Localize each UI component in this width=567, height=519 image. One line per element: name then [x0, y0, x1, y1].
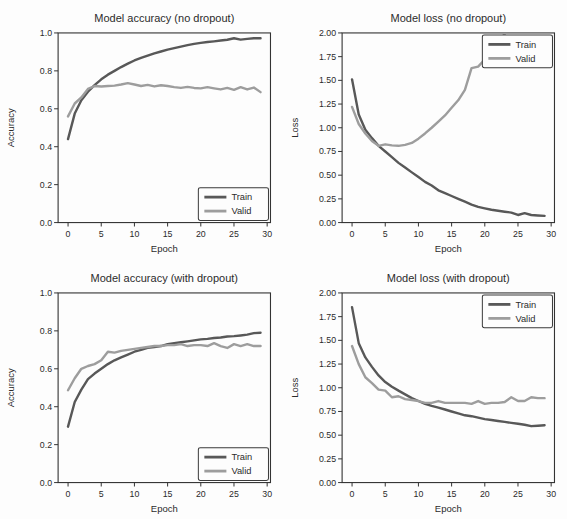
- y-tick-label: 1.0: [40, 28, 52, 38]
- x-tick-label: 15: [163, 229, 173, 239]
- x-tick-label: 30: [262, 488, 272, 498]
- cell-accuracy-with-dropout: 0510152025300.00.20.40.60.81.0Model accu…: [0, 260, 284, 519]
- series-group: [68, 38, 261, 139]
- x-axis-label: Epoch: [434, 243, 461, 254]
- y-tick-label: 0.0: [40, 477, 52, 487]
- y-tick-label: 2.00: [318, 28, 335, 38]
- y-tick-label: 0.75: [318, 146, 335, 156]
- x-tick-label: 5: [382, 488, 387, 498]
- series-line-train: [352, 79, 545, 216]
- x-tick-label: 20: [196, 229, 206, 239]
- x-tick-label: 30: [262, 229, 272, 239]
- y-tick-label: 1.50: [318, 335, 335, 345]
- x-tick-label: 10: [130, 488, 140, 498]
- x-tick-label: 0: [349, 229, 354, 239]
- legend: TrainValid: [482, 35, 552, 68]
- y-tick-label: 1.75: [318, 311, 335, 321]
- y-tick-label: 1.0: [40, 287, 52, 297]
- x-tick-label: 20: [479, 229, 489, 239]
- series-line-valid: [68, 83, 261, 116]
- x-tick-label: 10: [413, 488, 423, 498]
- chart-loss-with-dropout: 0510152025300.000.250.500.751.001.251.50…: [284, 260, 567, 519]
- y-tick-label: 0.4: [40, 142, 52, 152]
- y-tick-label: 1.00: [318, 123, 335, 133]
- x-tick-label: 5: [382, 229, 387, 239]
- x-tick-label: 5: [99, 488, 104, 498]
- legend-label-valid: Valid: [515, 313, 535, 323]
- y-axis-label: Accuracy: [5, 368, 16, 407]
- y-tick-label: 2.00: [318, 287, 335, 297]
- y-axis-label: Loss: [289, 118, 300, 138]
- x-tick-label: 15: [446, 229, 456, 239]
- series-line-valid: [352, 346, 545, 404]
- x-tick-label: 25: [513, 229, 523, 239]
- y-tick-label: 0.25: [318, 453, 335, 463]
- y-tick-label: 1.00: [318, 382, 335, 392]
- y-tick-label: 0.25: [318, 194, 335, 204]
- y-tick-label: 1.75: [318, 52, 335, 62]
- chart-title: Model loss (no dropout): [390, 12, 506, 24]
- y-tick-label: 0.8: [40, 66, 52, 76]
- chart-accuracy-with-dropout: 0510152025300.00.20.40.60.81.0Model accu…: [0, 260, 284, 519]
- x-tick-label: 20: [479, 488, 489, 498]
- y-tick-label: 0.50: [318, 170, 335, 180]
- training-curves-figure: 0510152025300.00.20.40.60.81.0Model accu…: [0, 0, 567, 519]
- chart-title: Model accuracy (with dropout): [91, 271, 238, 283]
- x-tick-label: 0: [66, 229, 71, 239]
- x-tick-label: 10: [130, 229, 140, 239]
- chart-title: Model loss (with dropout): [386, 271, 509, 283]
- y-tick-label: 0.0: [40, 218, 52, 228]
- legend-label-train: Train: [231, 452, 252, 462]
- cell-accuracy-no-dropout: 0510152025300.00.20.40.60.81.0Model accu…: [0, 0, 284, 260]
- x-tick-label: 10: [413, 229, 423, 239]
- legend-label-train: Train: [515, 40, 536, 50]
- series-line-train: [68, 332, 261, 426]
- legend: TrainValid: [198, 447, 268, 480]
- legend-label-valid: Valid: [231, 466, 251, 476]
- y-axis-label: Loss: [289, 377, 300, 397]
- x-tick-label: 15: [446, 488, 456, 498]
- legend: TrainValid: [198, 188, 268, 221]
- x-tick-label: 30: [546, 488, 556, 498]
- y-tick-label: 0.4: [40, 401, 52, 411]
- chart-accuracy-no-dropout: 0510152025300.00.20.40.60.81.0Model accu…: [0, 0, 284, 260]
- chart-loss-no-dropout: 0510152025300.000.250.500.751.001.251.50…: [284, 0, 567, 260]
- y-tick-label: 0.2: [40, 180, 52, 190]
- y-tick-label: 0.6: [40, 363, 52, 373]
- y-tick-label: 0.75: [318, 406, 335, 416]
- y-tick-label: 1.25: [318, 99, 335, 109]
- y-tick-label: 0.8: [40, 325, 52, 335]
- y-tick-label: 1.50: [318, 75, 335, 85]
- x-tick-label: 30: [546, 229, 556, 239]
- cell-loss-with-dropout: 0510152025300.000.250.500.751.001.251.50…: [284, 260, 567, 519]
- chart-title: Model accuracy (no dropout): [94, 12, 234, 24]
- legend-label-train: Train: [231, 192, 252, 202]
- y-tick-label: 0.50: [318, 430, 335, 440]
- x-tick-label: 0: [349, 488, 354, 498]
- x-tick-label: 20: [196, 488, 206, 498]
- x-tick-label: 25: [229, 488, 239, 498]
- legend-label-train: Train: [515, 299, 536, 309]
- y-tick-label: 0.6: [40, 104, 52, 114]
- x-tick-label: 5: [99, 229, 104, 239]
- x-axis-label: Epoch: [151, 502, 178, 513]
- x-tick-label: 25: [229, 229, 239, 239]
- x-tick-label: 25: [513, 488, 523, 498]
- y-tick-label: 0.00: [318, 218, 335, 228]
- y-tick-label: 1.25: [318, 359, 335, 369]
- legend: TrainValid: [482, 294, 552, 327]
- series-line-valid: [68, 343, 261, 390]
- x-tick-label: 15: [163, 488, 173, 498]
- x-axis-label: Epoch: [434, 502, 461, 513]
- cell-loss-no-dropout: 0510152025300.000.250.500.751.001.251.50…: [284, 0, 567, 260]
- y-tick-label: 0.00: [318, 477, 335, 487]
- series-group: [68, 332, 261, 426]
- y-tick-label: 0.2: [40, 439, 52, 449]
- x-tick-label: 0: [66, 488, 71, 498]
- x-axis-label: Epoch: [151, 243, 178, 254]
- y-axis-label: Accuracy: [5, 108, 16, 147]
- legend-label-valid: Valid: [515, 54, 535, 64]
- legend-label-valid: Valid: [231, 206, 251, 216]
